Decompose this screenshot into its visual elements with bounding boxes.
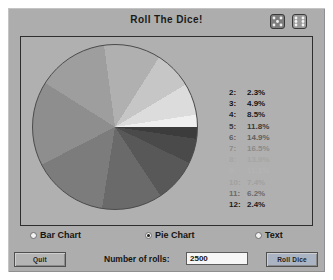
legend-row: 4:8.5% (229, 109, 309, 120)
die-icon-right (291, 13, 308, 30)
radio-label-bar-chart: Bar Chart (40, 230, 81, 240)
legend-row: 11:6.2% (229, 188, 309, 199)
legend-row: 9:11.1% (229, 165, 309, 176)
legend-key: 2: (229, 87, 247, 98)
radio-label-text: Text (265, 230, 283, 240)
legend-row: 5:11.8% (229, 121, 309, 132)
legend-value: 11.8% (247, 121, 269, 132)
legend-row: 2:2.3% (229, 87, 309, 98)
rolls-input[interactable]: 2500 (186, 252, 248, 265)
legend-key: 9: (229, 165, 247, 176)
app-window: Roll The Dice! 2 (8, 8, 325, 272)
title-bar: Roll The Dice! (8, 8, 325, 34)
legend-value: 16.5% (247, 143, 270, 154)
legend-value: 14.9% (247, 132, 270, 143)
radio-label-pie-chart: Pie Chart (155, 230, 195, 240)
chart-type-radio-group: Bar Chart Pie Chart Text (8, 230, 325, 248)
legend-key: 7: (229, 143, 247, 154)
quit-button[interactable]: Quit (14, 252, 66, 267)
legend-key: 3: (229, 98, 247, 109)
legend-value: 2.3% (247, 87, 265, 98)
radio-text[interactable]: Text (255, 230, 283, 240)
rolls-label: Number of rolls: (104, 254, 170, 264)
legend-key: 4: (229, 109, 247, 120)
legend-value: 4.9% (247, 98, 265, 109)
legend-row: 3:4.9% (229, 98, 309, 109)
radio-pie-chart[interactable]: Pie Chart (145, 230, 195, 240)
radio-dot-pie-chart[interactable] (145, 232, 152, 239)
legend-key: 6: (229, 132, 247, 143)
legend-row: 8:13.9% (229, 154, 309, 165)
legend-row: 12:2.4% (229, 199, 309, 210)
bottom-toolbar: Quit Number of rolls: 2500 Roll Dice (8, 252, 325, 272)
chart-legend: 2:2.3%3:4.9%4:8.5%5:11.8%6:14.9%7:16.5%8… (229, 87, 309, 210)
legend-value: 7.4% (247, 177, 265, 188)
legend-key: 5: (229, 121, 247, 132)
pie-disc (32, 44, 198, 210)
legend-row: 10:7.4% (229, 177, 309, 188)
die-icon-left (269, 13, 286, 30)
legend-value: 8.5% (247, 109, 265, 120)
radio-dot-text[interactable] (255, 232, 262, 239)
chart-panel: 2:2.3%3:4.9%4:8.5%5:11.8%6:14.9%7:16.5%8… (20, 36, 313, 226)
pie-chart (29, 41, 204, 219)
legend-key: 12: (229, 199, 247, 210)
legend-key: 11: (229, 188, 247, 199)
roll-dice-button[interactable]: Roll Dice (266, 252, 318, 267)
legend-value: 11.1% (247, 165, 269, 176)
legend-value: 6.2% (247, 188, 265, 199)
legend-value: 2.4% (247, 199, 265, 210)
dice-icon-group (269, 12, 317, 32)
legend-value: 13.9% (247, 154, 270, 165)
legend-key: 10: (229, 177, 247, 188)
legend-row: 7:16.5% (229, 143, 309, 154)
legend-row: 6:14.9% (229, 132, 309, 143)
radio-bar-chart[interactable]: Bar Chart (30, 230, 81, 240)
radio-dot-bar-chart[interactable] (30, 232, 37, 239)
legend-key: 8: (229, 154, 247, 165)
